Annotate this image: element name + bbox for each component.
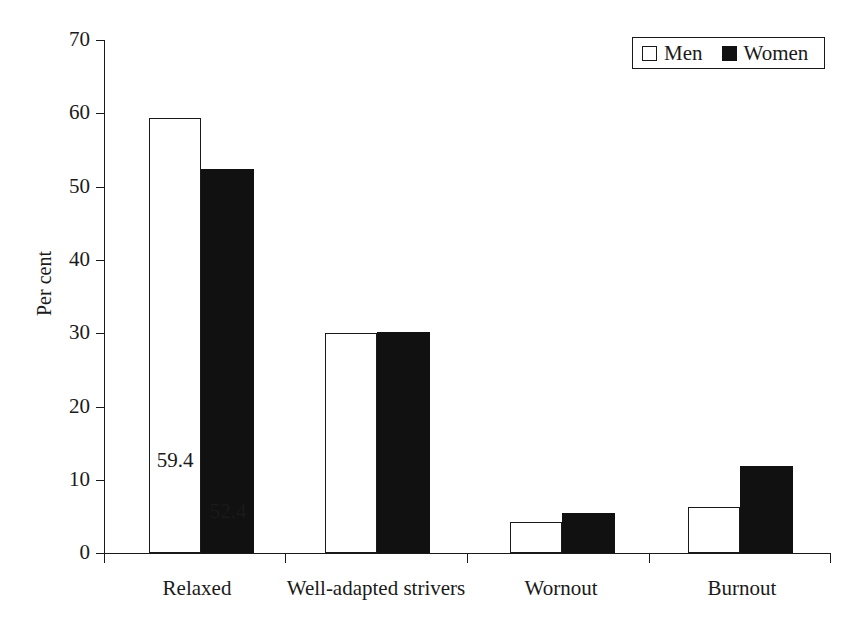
chart-legend: Men Women (632, 37, 825, 69)
bar-men-wornout (510, 522, 562, 553)
legend-item-men: Men (642, 43, 703, 64)
bar-women-wornout (562, 513, 615, 553)
x-axis-tick (285, 553, 286, 563)
plot-area: 59.4 52.4 30.0 30.2 4.2 5.4 6.3 11.9 (104, 40, 830, 553)
x-axis-tick (830, 553, 831, 563)
x-axis-tick (467, 553, 468, 563)
y-axis-tick-label: 20 (30, 396, 90, 417)
y-axis-tick-label: 70 (30, 29, 90, 50)
bar-women-relaxed (201, 169, 254, 553)
x-axis-category-label-burnout: Burnout (654, 576, 830, 600)
y-axis-tick-label: 10 (30, 469, 90, 490)
bar-chart: 70 60 50 40 30 20 10 0 Per cent 59.4 52.… (0, 0, 860, 631)
hollow-square-icon (642, 46, 657, 61)
filled-square-icon (722, 46, 737, 61)
legend-label-men: Men (664, 43, 703, 64)
legend-label-women: Women (744, 43, 809, 64)
x-axis-tick (649, 553, 650, 563)
y-axis-tick-label: 60 (30, 102, 90, 123)
bar-women-burnout (740, 466, 793, 553)
bar-men-burnout (688, 507, 740, 553)
y-axis-tick-label: 50 (30, 176, 90, 197)
x-axis-category-label-relaxed: Relaxed (109, 576, 285, 600)
y-axis-title: Per cent (33, 224, 56, 344)
legend-item-women: Women (722, 43, 809, 64)
x-axis-category-label-well-adapted-strivers: Well-adapted strivers (272, 576, 480, 600)
bar-women-well-adapted-strivers (377, 332, 430, 553)
bar-men-well-adapted-strivers (325, 333, 377, 553)
x-axis-category-label-wornout: Wornout (473, 576, 649, 600)
x-axis-tick (104, 553, 105, 563)
bar-men-relaxed (149, 118, 201, 553)
y-axis-tick-label: 0 (30, 542, 90, 563)
bar-value-women-relaxed: 52.4 (192, 501, 264, 522)
